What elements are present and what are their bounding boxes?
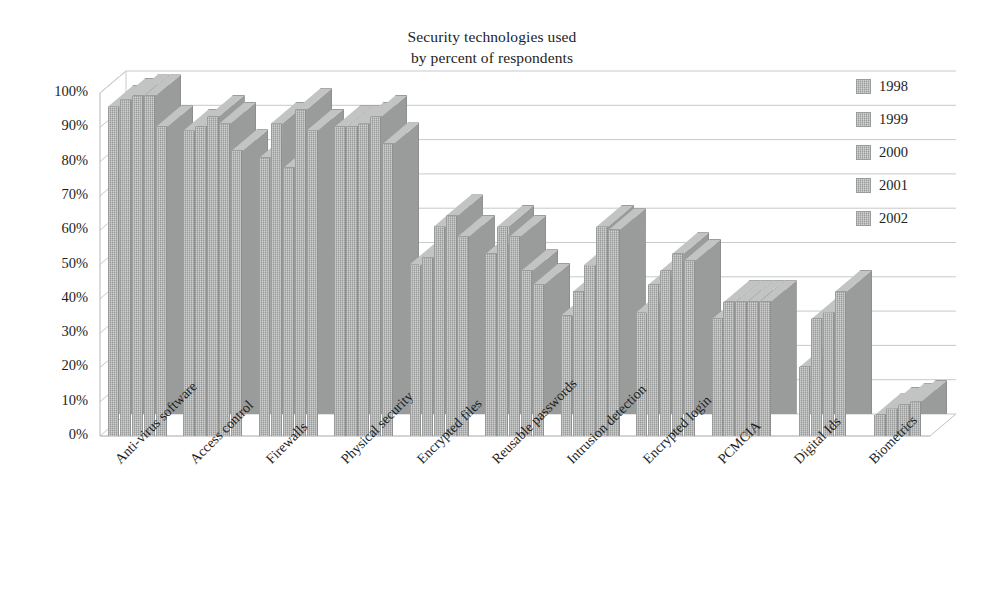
bar-physical-security-1999[interactable]	[346, 127, 357, 436]
legend-swatch-icon-2002	[856, 211, 871, 226]
legend-label-2002: 2002	[879, 210, 908, 227]
bar-reusable-passwords-1998[interactable]	[485, 254, 496, 436]
legend-label-1998: 1998	[879, 78, 908, 95]
legend-swatch-icon-1998	[856, 79, 871, 94]
legend-swatch-icon-2001	[856, 178, 871, 193]
legend-label-2001: 2001	[879, 177, 908, 194]
bar-intrusion-detection-2000[interactable]	[584, 265, 595, 437]
bar-reusable-passwords-1999[interactable]	[497, 227, 508, 436]
bar-encrypted-files-2000[interactable]	[434, 227, 445, 436]
bar-physical-security-2002[interactable]	[382, 144, 393, 436]
bar-side-face	[771, 280, 797, 414]
bar-pcmcia-1999[interactable]	[723, 302, 734, 436]
bar-encrypted-files-1999[interactable]	[422, 258, 433, 436]
legend-swatch-icon-2000	[856, 145, 871, 160]
bar-pcmcia-2002[interactable]	[759, 302, 770, 436]
bar-biometrics-1999[interactable]	[874, 415, 885, 436]
bar-firewalls-1999[interactable]	[271, 124, 282, 436]
bar-access-control-2000[interactable]	[207, 117, 218, 436]
bar-physical-security-2000[interactable]	[358, 124, 369, 436]
legend-label-1999: 1999	[879, 111, 908, 128]
bar-anti-virus-software-1999[interactable]	[120, 100, 131, 436]
bar-reusable-passwords-2001[interactable]	[521, 271, 532, 436]
bar-intrusion-detection-1998[interactable]	[561, 316, 572, 436]
legend-item-2001[interactable]: 2001	[856, 169, 976, 202]
bar-digital-ids-2000[interactable]	[811, 319, 822, 436]
bar-pcmcia-2001[interactable]	[747, 302, 758, 436]
legend-swatch-icon-1999	[856, 112, 871, 127]
bar-firewalls-2000[interactable]	[283, 168, 294, 436]
bar-reusable-passwords-2000[interactable]	[509, 237, 520, 436]
legend-item-2002[interactable]: 2002	[856, 202, 976, 235]
bar-anti-virus-software-1998[interactable]	[108, 107, 119, 436]
bar-firewalls-2001[interactable]	[295, 110, 306, 436]
bar-encrypted-files-2001[interactable]	[446, 216, 457, 436]
bar-encrypted-login-2001[interactable]	[672, 254, 683, 436]
legend-label-2000: 2000	[879, 144, 908, 161]
plot-area: 100%90%80%70%60%50%40%30%20%10%0% Anti-v…	[0, 0, 984, 612]
bar-anti-virus-software-2002[interactable]	[156, 127, 167, 436]
bar-firewalls-2002[interactable]	[307, 131, 318, 436]
chart-legend: 19981999200020012002	[856, 70, 976, 235]
legend-item-1999[interactable]: 1999	[856, 103, 976, 136]
bar-pcmcia-1998[interactable]	[712, 319, 723, 436]
bar-physical-security-2001[interactable]	[370, 117, 381, 436]
legend-item-2000[interactable]: 2000	[856, 136, 976, 169]
bar-physical-security-1998[interactable]	[334, 127, 345, 436]
bar-intrusion-detection-1999[interactable]	[573, 292, 584, 436]
bar-encrypted-files-1998[interactable]	[410, 265, 421, 437]
bar-series-layer	[0, 0, 984, 612]
bar-pcmcia-2000[interactable]	[735, 302, 746, 436]
bar-anti-virus-software-2001[interactable]	[144, 96, 155, 436]
bar-encrypted-login-1999[interactable]	[648, 285, 659, 436]
bar-access-control-2001[interactable]	[219, 124, 230, 436]
bar-firewalls-1998[interactable]	[259, 158, 270, 436]
legend-item-1998[interactable]: 1998	[856, 70, 976, 103]
bar-anti-virus-software-2000[interactable]	[132, 96, 143, 436]
bar-access-control-2002[interactable]	[231, 151, 242, 436]
bar-intrusion-detection-2001[interactable]	[596, 227, 607, 436]
bar-digital-ids-1999[interactable]	[799, 367, 810, 436]
bar-side-face	[846, 270, 872, 414]
bar-encrypted-login-2000[interactable]	[660, 271, 671, 436]
bar-digital-ids-2002[interactable]	[835, 292, 846, 436]
bar-encrypted-login-1998[interactable]	[636, 313, 647, 436]
